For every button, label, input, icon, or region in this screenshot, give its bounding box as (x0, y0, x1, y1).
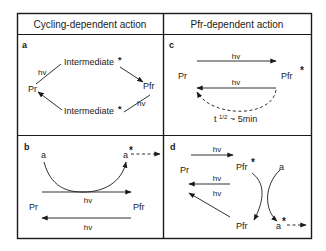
panel-a: a Intermediate * Intermediate * Pr Pfr h… (22, 40, 155, 116)
header-cycling-dependent: Cycling-dependent action (34, 19, 147, 30)
star-marker: * (282, 216, 286, 227)
activated-a: a (123, 150, 128, 160)
panel-c: c Pr Pfr * hv hv t 1/2 ~ 5min (169, 40, 304, 124)
intermediate-top: Intermediate (64, 57, 114, 67)
pfr-label: Pfr (236, 221, 248, 231)
intermediate-bottom: Intermediate (64, 106, 114, 116)
dark-reversion-arrow (197, 90, 276, 111)
hv-label: hv (232, 52, 240, 61)
arrow-to-pr (38, 92, 62, 110)
pfr-label: Pfr (281, 71, 293, 81)
star-marker: * (300, 65, 304, 76)
arrow-pfr-star-to-pfr (252, 173, 262, 220)
panel-label-b: b (24, 142, 30, 152)
half-life-label: t 1/2 ~ 5min (214, 111, 257, 124)
panel-label-d: d (170, 142, 176, 152)
arrow-a-to-a-star (268, 170, 280, 221)
arrow-pfr-to-pr (189, 193, 230, 217)
hv-label: hv (232, 78, 240, 87)
pfr-label: Pfr (143, 81, 155, 91)
panel-label-a: a (22, 40, 28, 50)
pr-label: Pr (29, 202, 38, 212)
panel-b: b a a * Pr Pfr hv hv (24, 142, 160, 232)
phytochrome-action-diagram: Cycling-dependent action Pfr-dependent a… (0, 0, 326, 251)
pfr-label: Pfr (133, 202, 145, 212)
transition-line (124, 95, 150, 112)
panel-d: d Pr Pfr * a Pfr a * hv hv hv (170, 142, 306, 231)
pfr-star-label: Pfr (236, 162, 248, 172)
hv-label: hv (213, 145, 221, 154)
header-pfr-dependent: Pfr-dependent action (191, 19, 284, 30)
panel-label-c: c (169, 40, 174, 50)
star-marker: * (251, 157, 255, 168)
star-marker: * (118, 104, 122, 114)
pr-label: Pr (178, 71, 187, 81)
diagram-frame (17, 13, 312, 239)
activated-a: a (276, 221, 281, 231)
pr-label: Pr (180, 165, 189, 175)
pr-label: Pr (28, 84, 37, 94)
star-marker: * (118, 55, 122, 65)
hv-label: hv (213, 189, 221, 198)
hv-label: hv (213, 174, 221, 183)
hv-label: hv (84, 196, 92, 205)
hv-label: hv (38, 68, 46, 77)
substrate-a: a (41, 150, 46, 160)
coupled-reaction-arrow (44, 162, 126, 192)
arrow-to-pfr (120, 67, 143, 82)
hv-label: hv (84, 223, 92, 232)
